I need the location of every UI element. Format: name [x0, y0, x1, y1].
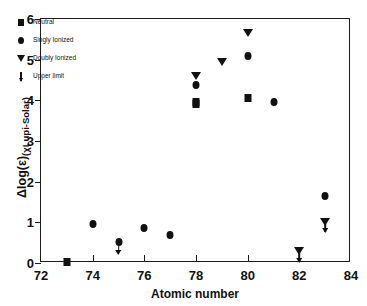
x-axis-tick	[248, 255, 249, 261]
legend-label: Singly Ionized	[33, 37, 73, 44]
x-axis-tick-label: 84	[344, 269, 358, 282]
triangle-down-marker-icon	[16, 54, 26, 63]
upper-limit-arrow	[299, 253, 301, 262]
data-point-square	[193, 98, 200, 106]
data-point-triangle-down	[191, 72, 201, 80]
x-axis-tick	[196, 255, 197, 261]
x-axis-tick	[144, 255, 145, 261]
square-marker-icon	[16, 18, 26, 27]
upper-limit-arrow	[118, 245, 120, 254]
down-arrow-marker-icon	[16, 72, 26, 81]
plot-area: 012345672747678808284	[41, 19, 349, 261]
y-axis-tick	[35, 222, 41, 223]
data-point-triangle-down	[217, 58, 227, 66]
legend-item: Upper limit	[16, 72, 76, 81]
x-axis-tick-label: 80	[240, 269, 254, 282]
data-point-circle	[244, 52, 251, 60]
y-axis-label-main: Δlog(ε)	[15, 156, 29, 198]
x-axis-tick	[93, 255, 94, 261]
x-axis-tick-label: 72	[34, 269, 48, 282]
y-axis-label-sub: (χLupi-Solar)	[20, 97, 31, 156]
legend-label: Neutral	[33, 19, 54, 26]
y-axis-tick	[35, 182, 41, 183]
chart-figure: 012345672747678808284 Δlog(ε)(χLupi-Sola…	[0, 0, 367, 306]
data-point-square	[63, 258, 70, 266]
legend-item: Neutral	[16, 18, 76, 27]
data-point-circle	[141, 224, 148, 232]
y-axis-tick	[35, 263, 41, 264]
y-axis-tick	[35, 100, 41, 101]
upper-limit-arrow	[324, 224, 326, 232]
legend-label: Upper limit	[33, 73, 64, 80]
plot-frame: 012345672747678808284	[40, 18, 350, 262]
chart-legend: NeutralSingly IonizedDoubly IonizedUpper…	[16, 18, 76, 81]
legend-label: Doubly Ionized	[33, 55, 76, 62]
x-axis-tick-label: 78	[189, 269, 203, 282]
circle-marker-icon	[16, 36, 26, 45]
x-axis-tick-label: 82	[292, 269, 306, 282]
data-point-circle	[193, 81, 200, 89]
data-point-circle	[167, 231, 174, 239]
data-point-circle	[270, 98, 277, 106]
data-point-square	[244, 94, 251, 102]
x-axis-tick-label: 76	[137, 269, 151, 282]
y-axis-tick	[35, 141, 41, 142]
data-point-circle	[89, 220, 96, 228]
legend-item: Doubly Ionized	[16, 54, 76, 63]
x-axis-tick-label: 74	[85, 269, 99, 282]
data-point-triangle-down	[243, 29, 253, 37]
x-axis-label: Atomic number	[40, 288, 350, 300]
data-point-circle	[322, 192, 329, 200]
legend-item: Singly Ionized	[16, 36, 76, 45]
y-axis-label: Δlog(ε)(χLupi-Solar)	[16, 63, 31, 233]
